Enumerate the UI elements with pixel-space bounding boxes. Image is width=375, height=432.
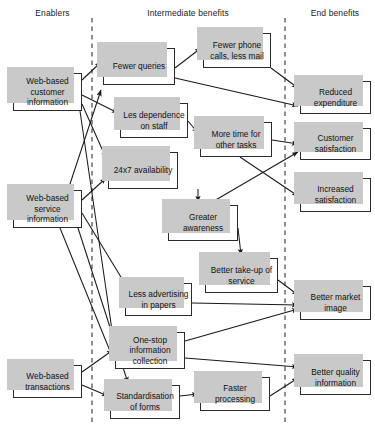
node-web-service-info[interactable]: Web-based service information <box>13 190 82 228</box>
node-label: Fewer phone calls, less mail <box>206 40 268 61</box>
node-label: Web-based transactions <box>16 371 79 392</box>
node-availability-24x7[interactable]: 24x7 availability <box>108 152 178 189</box>
node-fewer-queries[interactable]: Fewer queries <box>103 48 175 85</box>
node-increased-satisfaction[interactable]: Increased satisfaction <box>300 178 371 212</box>
node-label: Fewer queries <box>113 61 166 72</box>
node-label: One-stop information collection <box>118 335 182 367</box>
edge-webservice-24x7 <box>82 178 106 200</box>
node-customer-satisfaction[interactable]: Customer satisfaction <box>300 128 371 160</box>
edge-webcustomer-lessdependence <box>82 95 118 113</box>
node-better-take-up[interactable]: Better take-up of service <box>205 258 278 293</box>
node-web-customer-info[interactable]: Web-based customer information <box>13 73 82 111</box>
node-one-stop[interactable]: One-stop information collection <box>115 332 185 369</box>
edge-onestop-bettermarketimage <box>185 309 298 341</box>
node-label: Reduced expenditure <box>303 87 368 108</box>
node-label: Standardisation of forms <box>113 391 177 412</box>
node-label: Increased satisfaction <box>303 184 368 205</box>
node-standardisation[interactable]: Standardisation of forms <box>110 385 180 419</box>
edge-fewerqueries-reducedexpenditure <box>175 78 298 106</box>
node-label: 24x7 availability <box>114 165 173 176</box>
node-label: Web-based service information <box>16 193 79 225</box>
edge-lessadvertising-bettermarketimage <box>192 303 298 305</box>
node-label: Better take-up of service <box>208 265 275 286</box>
node-label: More time for other tasks <box>203 129 269 150</box>
node-label: Faster processing <box>203 383 267 404</box>
node-label: Less advertising in papers <box>128 289 189 310</box>
node-label: Better quality information <box>303 367 368 388</box>
node-reduced-expenditure[interactable]: Reduced expenditure <box>300 81 371 114</box>
edge-webservice-onestop <box>60 228 112 356</box>
node-label: Web-based customer information <box>16 76 79 108</box>
node-label: Customer satisfaction <box>303 133 368 154</box>
node-web-transactions[interactable]: Web-based transactions <box>13 365 82 398</box>
node-greater-awareness[interactable]: Greater awareness <box>168 205 238 241</box>
node-faster-processing[interactable]: Faster processing <box>200 377 270 411</box>
node-more-time[interactable]: More time for other tasks <box>200 122 272 157</box>
node-less-advertising[interactable]: Less advertising in papers <box>125 283 192 316</box>
node-better-quality-info[interactable]: Better quality information <box>300 360 371 395</box>
node-fewer-phone-calls[interactable]: Fewer phone calls, less mail <box>203 33 271 68</box>
node-label: Les dependence on staff <box>123 110 185 131</box>
node-label: Better market image <box>303 292 368 313</box>
node-less-dependence[interactable]: Les dependence on staff <box>120 103 188 138</box>
edge-greaterawareness-customersatisfaction <box>207 152 298 205</box>
edge-moretime-increasedsatisfaction <box>240 157 298 196</box>
edge-onestop-betterqualityinfo <box>185 358 298 367</box>
node-better-market-image[interactable]: Better market image <box>300 286 371 320</box>
edge-greaterawareness-bettertakeup <box>238 228 241 255</box>
node-label: Greater awareness <box>171 212 235 233</box>
